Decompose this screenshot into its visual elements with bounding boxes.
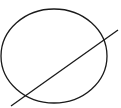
circle-shape (1, 9, 107, 103)
diagram-canvas (0, 0, 121, 108)
secant-line (11, 30, 118, 106)
